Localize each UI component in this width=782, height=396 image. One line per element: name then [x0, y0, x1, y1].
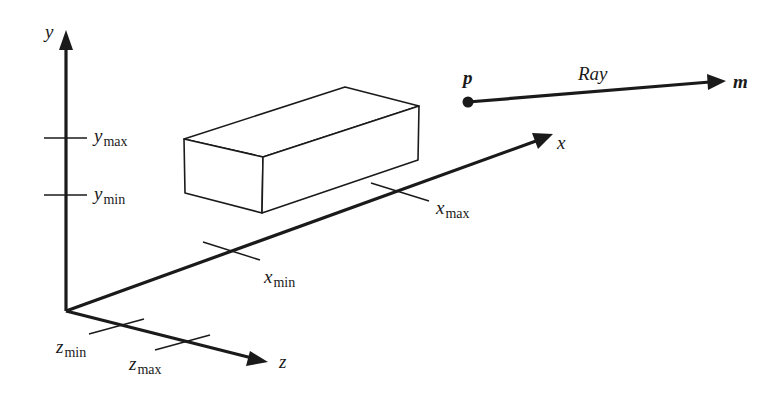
z-axis-arrow-icon	[246, 351, 268, 366]
y-axis-label: y	[45, 22, 53, 41]
z-min-tick	[89, 319, 144, 334]
z-axis-label: z	[279, 352, 286, 371]
x-axis-arrow-icon	[532, 133, 553, 149]
ray-origin-point-icon	[463, 97, 474, 108]
x-min-label: xmin	[264, 267, 295, 290]
point-m-label: m	[733, 72, 748, 91]
y-max-label: ymax	[94, 126, 128, 149]
x-max-label: xmax	[436, 198, 470, 221]
y-min-label: ymin	[94, 184, 125, 207]
point-p-label: p	[463, 68, 473, 87]
ray-arrow-icon	[707, 74, 726, 90]
y-axis	[44, 30, 87, 311]
z-axis	[66, 311, 268, 366]
z-min-label: zmin	[56, 337, 86, 360]
y-axis-arrow-icon	[59, 30, 73, 50]
z-max-label: zmax	[129, 354, 162, 377]
ray-box-diagram: y x z ymax ymin xmin xmax zmin zmax Ray …	[0, 0, 782, 396]
x-axis-label: x	[557, 133, 565, 152]
box-cuboid	[184, 87, 419, 213]
z-max-tick	[155, 335, 210, 350]
ray-label: Ray	[578, 64, 608, 83]
